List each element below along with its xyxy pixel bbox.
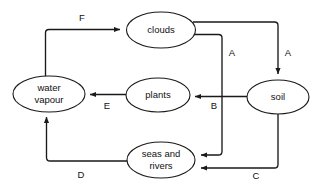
node-plants-label: plants [145, 89, 171, 100]
node-water-vapour[interactable]: water vapour [13, 76, 85, 112]
node-soil-label: soil [271, 91, 285, 102]
node-plants[interactable]: plants [126, 78, 190, 112]
edge-a-left-path [193, 35, 222, 156]
edge-e: E [90, 95, 126, 111]
node-seas-and-rivers-label-line2: rivers [149, 160, 172, 171]
edge-b-label: B [211, 100, 217, 111]
node-soil[interactable]: soil [247, 80, 309, 114]
node-water-vapour-label-line1: water [36, 82, 60, 93]
edge-d-label: D [78, 169, 85, 180]
edge-a-right-path [193, 22, 278, 74]
node-seas-and-rivers-label-line1: seas and [142, 148, 181, 159]
edge-c: C [201, 114, 278, 181]
edge-c-label: C [253, 170, 260, 181]
edge-f-path [46, 30, 121, 77]
node-clouds[interactable]: clouds [127, 12, 196, 48]
water-cycle-diagram: F A A B C D E [0, 0, 318, 192]
edge-e-label: E [104, 100, 110, 111]
edge-f: F [46, 12, 121, 77]
edge-f-label: F [79, 12, 85, 23]
node-water-vapour-label-line2: vapour [34, 94, 63, 105]
edge-a-right-label: A [285, 47, 292, 58]
diagram-canvas: F A A B C D E [0, 0, 318, 192]
edge-a-right: A [193, 22, 292, 74]
node-seas-and-rivers[interactable]: seas and rivers [127, 142, 195, 178]
edge-a-left-label: A [229, 47, 236, 58]
edge-c-path [201, 114, 278, 168]
edge-d-path [47, 117, 129, 161]
node-clouds-label: clouds [147, 24, 175, 35]
edge-d: D [47, 117, 129, 180]
edge-a-left: A [193, 35, 236, 156]
edge-b: B [195, 97, 247, 111]
